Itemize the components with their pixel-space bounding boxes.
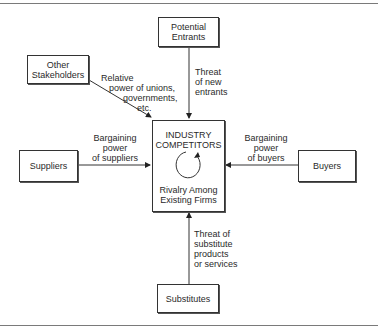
buyers-label: Buyers <box>313 161 341 171</box>
substitutes-edge-label: Threat of substitute products or service… <box>194 229 238 269</box>
potential-entrants-label: Potential Entrants <box>171 22 206 42</box>
suppliers-label: Suppliers <box>30 161 68 171</box>
other-stakeholders-label: Other Stakeholders <box>32 60 85 80</box>
industry-competitors-title: INDUSTRY COMPETITORS <box>156 130 222 150</box>
other-stakeholders-box: Other Stakeholders <box>27 55 89 84</box>
potential-entrants-box: Potential Entrants <box>158 17 219 47</box>
rivalry-label: Rivalry Among Existing Firms <box>159 185 217 205</box>
buyers-edge-label: Bargaining power of buyers <box>241 133 291 163</box>
entrants-edge-label: Threat of new entrants <box>195 67 228 97</box>
subtitle-line-2: Existing Firms <box>159 195 217 205</box>
substitutes-box: Substitutes <box>157 284 219 313</box>
suppliers-edge-label: Bargaining power of suppliers <box>89 133 141 163</box>
substitutes-label: Substitutes <box>166 294 211 304</box>
subtitle-line-1: Rivalry Among <box>159 185 217 195</box>
industry-competitors-box: INDUSTRY COMPETITORS Rivalry Among Exist… <box>152 120 225 212</box>
title-line-1: INDUSTRY <box>156 130 222 140</box>
buyers-box: Buyers <box>298 150 356 182</box>
title-line-2: COMPETITORS <box>156 140 222 150</box>
stakeholders-edge-label: Relative power of unions, governments, e… <box>101 73 178 113</box>
suppliers-box: Suppliers <box>19 150 78 182</box>
